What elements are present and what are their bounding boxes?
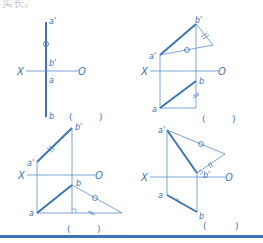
figure-1: a' b' a b X O ( ): [16, 17, 103, 122]
right-angle-mark-icon: [72, 209, 76, 213]
answer-close-paren: ): [232, 114, 236, 124]
label-b: b: [199, 77, 204, 86]
bottom-divider: [0, 235, 263, 238]
projection-diagrams: a' b' a b X O ( ) b' a' b a X O ( ): [0, 0, 263, 243]
axis-x-label: X: [140, 172, 149, 183]
axis-o-label: O: [95, 170, 103, 181]
label-a-prime: a': [27, 159, 34, 168]
label-b-prime: b': [195, 16, 202, 25]
axis-x-label: X: [17, 170, 26, 181]
label-a: a: [29, 209, 34, 218]
answer-open-paren: (: [69, 112, 73, 122]
axis-x-label: X: [140, 66, 149, 77]
label-a: a: [49, 76, 54, 85]
top-projection-a-b: [160, 81, 196, 108]
label-a-prime: a': [158, 126, 165, 135]
front-projection-a-b: [160, 24, 196, 55]
label-b-prime: b': [203, 171, 210, 180]
label-a-prime: a': [149, 52, 156, 61]
answer-close-paren: ): [99, 112, 103, 122]
front-projection-a-b: [37, 128, 72, 162]
label-b-prime: b': [75, 123, 82, 132]
label-a: a: [158, 191, 163, 200]
axis-o-label: O: [218, 66, 226, 77]
label-b: b: [76, 179, 81, 188]
label-b: b: [49, 112, 54, 121]
answer-close-paren: ): [97, 224, 101, 234]
answer-close-paren: ): [235, 221, 239, 231]
answer-open-paren: (: [202, 114, 206, 124]
label-a-prime: a': [49, 17, 56, 26]
label-b-prime: b': [49, 59, 56, 68]
answer-open-paren: (: [203, 221, 207, 231]
top-projection-a-b: [167, 195, 197, 212]
axis-o-label: O: [225, 172, 233, 183]
label-a: a: [152, 105, 157, 114]
figure-4: a' b' a b X O ( ): [140, 126, 239, 231]
top-projection-a-b: [37, 185, 72, 213]
figure-3: b' a' b a X O ( ): [17, 123, 122, 234]
axis-o-label: O: [78, 66, 86, 77]
axis-x-label: X: [16, 66, 25, 77]
figure-2: b' a' b a X O ( ): [140, 16, 236, 124]
label-b: b: [199, 212, 204, 221]
answer-open-paren: (: [67, 224, 71, 234]
